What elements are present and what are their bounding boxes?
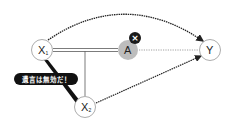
node-x1-subscript: 1: [46, 50, 49, 56]
node-a-label: A: [124, 44, 132, 56]
node-y: Y: [200, 40, 221, 61]
invalid-badge: ×: [129, 32, 141, 44]
close-icon: ×: [131, 33, 139, 43]
node-x2-subscript: 2: [89, 107, 92, 113]
edge-x1-y-arc: [48, 14, 203, 41]
node-y-label: Y: [206, 44, 214, 56]
node-x1: X 1: [32, 40, 53, 61]
causal-diagram: X 1 A × Y X 2 遺言は無効だ！: [0, 0, 231, 130]
callout-text: 遺言は無効だ！: [21, 75, 71, 84]
edge-x2-y: [96, 56, 201, 103]
callout: 遺言は無効だ！: [14, 73, 78, 85]
node-x2: X 2: [75, 97, 96, 118]
